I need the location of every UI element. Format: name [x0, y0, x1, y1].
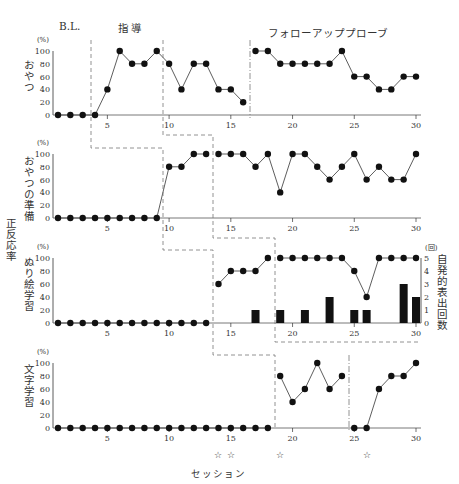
data-point [104, 215, 110, 221]
tick-label: 0 [45, 214, 50, 223]
data-point [154, 215, 160, 221]
data-point [326, 386, 332, 392]
data-point [277, 255, 283, 261]
data-point [117, 48, 123, 54]
bar-session-19 [276, 310, 284, 323]
data-point [265, 425, 271, 431]
data-point [252, 425, 258, 431]
data-point [376, 255, 382, 261]
tick-label: 20 [40, 98, 50, 107]
data-point [413, 360, 419, 366]
bar-session-25 [350, 310, 358, 323]
y-unit-label: (%) [37, 139, 49, 147]
tick-label: 25 [349, 434, 359, 443]
tick-label: 5 [424, 254, 429, 263]
data-point [166, 164, 172, 170]
tick-label: 5 [105, 121, 110, 130]
data-point [104, 425, 110, 431]
data-point [92, 215, 98, 221]
tick-label: 60 [40, 176, 50, 185]
data-point [252, 164, 258, 170]
data-point [376, 86, 382, 92]
data-point [388, 255, 394, 261]
data-point [178, 164, 184, 170]
data-point [351, 73, 357, 79]
data-point [191, 61, 197, 67]
tick-label: 5 [105, 329, 110, 338]
data-point [400, 373, 406, 379]
data-point [166, 320, 172, 326]
tick-label: 100 [35, 359, 50, 368]
data-point [339, 373, 345, 379]
tick-label: 80 [40, 60, 50, 69]
data-point [265, 48, 271, 54]
tick-label: 20 [287, 121, 297, 130]
tick-label: 10 [164, 434, 174, 443]
data-point [79, 215, 85, 221]
data-point [265, 151, 271, 157]
bar-session-29 [400, 284, 408, 323]
data-point [376, 386, 382, 392]
data-point [314, 164, 320, 170]
y-unit-label: (%) [37, 36, 49, 44]
data-point [289, 255, 295, 261]
panel-4 [53, 360, 421, 432]
tick-label: 5 [105, 224, 110, 233]
tick-label: 100 [35, 254, 50, 263]
bar-session-30 [412, 297, 420, 323]
x-axis-label: セッション [191, 466, 246, 480]
data-point [314, 360, 320, 366]
data-point [277, 373, 283, 379]
data-point [400, 176, 406, 182]
tick-label: 100 [35, 47, 50, 56]
data-point [141, 320, 147, 326]
panel-2 [53, 151, 421, 222]
data-point [351, 268, 357, 274]
tick-label: 20 [40, 306, 50, 315]
tick-label: 2 [424, 293, 429, 302]
data-point [79, 425, 85, 431]
tick-label: 20 [287, 329, 297, 338]
data-point [141, 61, 147, 67]
data-point [178, 425, 184, 431]
star-marker: ☆ [214, 450, 222, 460]
data-point [129, 61, 135, 67]
tick-label: 15 [226, 121, 236, 130]
data-point [215, 425, 221, 431]
data-point [191, 151, 197, 157]
data-point [166, 425, 172, 431]
tick-label: 60 [40, 385, 50, 394]
data-point [413, 255, 419, 261]
data-point [92, 425, 98, 431]
data-point [117, 215, 123, 221]
data-point [203, 320, 209, 326]
data-point [154, 425, 160, 431]
data-point [326, 255, 332, 261]
data-point [203, 151, 209, 157]
data-point [67, 425, 73, 431]
data-point [92, 112, 98, 118]
data-point [203, 61, 209, 67]
tick-label: 40 [40, 398, 50, 407]
data-point [277, 61, 283, 67]
data-point [388, 86, 394, 92]
data-point [117, 320, 123, 326]
data-point [339, 255, 345, 261]
data-point [79, 320, 85, 326]
tick-label: 30 [411, 121, 421, 130]
phase-change-line-1 [91, 40, 275, 430]
tick-label: 3 [424, 280, 429, 289]
panel-3 [53, 255, 421, 327]
tick-label: 40 [40, 188, 50, 197]
data-point [240, 99, 246, 105]
data-point [67, 112, 73, 118]
data-point [55, 320, 61, 326]
data-point [351, 151, 357, 157]
tick-label: 10 [164, 224, 174, 233]
tick-label: 20 [287, 224, 297, 233]
data-point [326, 176, 332, 182]
panel4-ylabel: 文字学習 [23, 364, 34, 408]
data-point [240, 151, 246, 157]
data-point [252, 268, 258, 274]
data-point [104, 320, 110, 326]
